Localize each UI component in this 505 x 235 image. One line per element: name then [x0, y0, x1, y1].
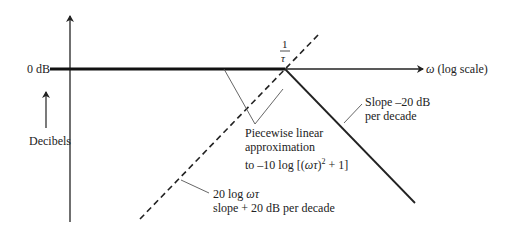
- slope-neg-label-2: per decade: [365, 110, 417, 123]
- piecewise-label-1: Piecewise linear: [245, 127, 323, 140]
- decibels-label: Decibels: [29, 135, 71, 148]
- zero-db-label: 0 dB: [27, 63, 50, 76]
- piecewise-callout: [224, 69, 283, 124]
- slope-callout: [344, 104, 362, 123]
- piecewise-label-3: to –10 log [(ωτ)2 + 1]: [245, 155, 348, 172]
- dashed-label-2: slope + 20 dB per decade: [213, 202, 335, 215]
- slope-neg-label-1: Slope –20 dB: [365, 96, 430, 109]
- dashed-callout: [181, 180, 209, 193]
- bode-diagram: 0 dB Decibels 1 τ ω (log scale) Slope –2…: [0, 0, 505, 235]
- x-axis-label: ω (log scale): [426, 63, 488, 76]
- corner-denominator: τ: [281, 52, 285, 65]
- piecewise-label-2: approximation: [245, 141, 315, 154]
- corner-numerator: 1: [282, 38, 288, 51]
- dashed-label-1: 20 log ωτ: [213, 188, 259, 201]
